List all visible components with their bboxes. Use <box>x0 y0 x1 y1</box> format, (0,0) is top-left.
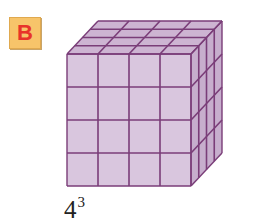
power-exponent: 3 <box>78 194 86 210</box>
unit-cube-diagram <box>0 0 260 224</box>
power-label: 43 <box>64 196 85 224</box>
power-base: 4 <box>64 196 77 223</box>
